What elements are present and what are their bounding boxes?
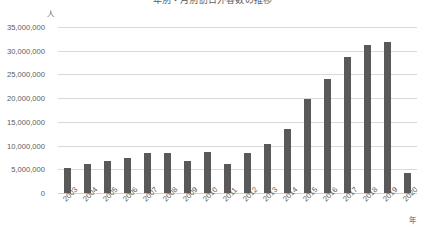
y-axis-tick-label: 10,000,000 — [0, 141, 45, 150]
bar-2018 — [364, 45, 371, 193]
y-axis-unit-label: 人 — [47, 8, 54, 19]
y-axis-tick-label: 25,000,000 — [0, 70, 45, 79]
y-axis-tick-label: 0 — [0, 189, 45, 198]
y-axis-tick-label: 15,000,000 — [0, 117, 45, 126]
x-axis-unit-label: 年 — [409, 214, 416, 225]
bar-2015 — [304, 99, 311, 193]
bar-chart: 年別・月別訪日外客数の推移 人 年 05,000,00010,000,00015… — [0, 0, 425, 230]
y-axis-tick-label: 5,000,000 — [0, 165, 45, 174]
plot-area — [58, 27, 417, 193]
bar-2014 — [284, 129, 291, 193]
chart-title: 年別・月別訪日外客数の推移 — [0, 0, 425, 6]
bar-2017 — [344, 57, 351, 193]
bar-2013 — [264, 144, 271, 193]
bar-2016 — [324, 79, 331, 193]
bar-series — [58, 27, 417, 193]
bar-2019 — [384, 42, 391, 193]
y-axis-tick-label: 30,000,000 — [0, 46, 45, 55]
y-axis-tick-label: 35,000,000 — [0, 23, 45, 32]
y-axis-tick-label: 20,000,000 — [0, 94, 45, 103]
